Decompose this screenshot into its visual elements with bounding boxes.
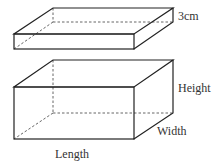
height-label: Height <box>178 81 211 95</box>
top-slab <box>14 8 173 49</box>
length-label: Length <box>55 147 89 161</box>
width-label: Width <box>157 124 187 138</box>
slab-right-face-edges <box>134 8 173 49</box>
slab-front-face <box>14 34 134 49</box>
slab-hidden-bottom-left-edge <box>14 22 53 49</box>
slab-top-face <box>14 8 173 34</box>
box-hidden-bottom-left-edge <box>14 113 53 139</box>
box-top-face <box>14 60 173 87</box>
slab-thickness-label: 3cm <box>178 9 199 23</box>
bottom-box <box>14 60 173 139</box>
diagram-canvas: 3cm Height Width Length <box>0 0 220 164</box>
